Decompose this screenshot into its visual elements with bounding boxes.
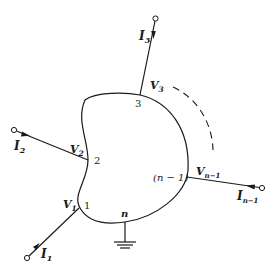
continuation-dashed-arc [173,87,213,150]
current-arrow-icon [21,132,30,137]
node-label-n: n [121,208,128,219]
node-n-ground: n [114,208,136,248]
node-label-n-minus-1: (n − 1) [153,172,188,183]
terminal-n-minus-1: In−1 Vn−1 (n − 1) [153,165,265,205]
voltage-label-1: V1 [63,198,77,213]
terminal-1-connector[interactable] [24,255,29,260]
current-label-1: I1 [40,247,52,263]
node-label-3: 3 [135,98,141,109]
current-label-2: I2 [13,139,26,155]
node-label-2: 2 [94,155,100,166]
node-label-1: 1 [84,200,90,211]
current-label-n-minus-1: In−1 [236,189,258,205]
terminal-n-minus-1-connector[interactable] [259,185,264,190]
voltage-label-3: V3 [150,79,164,94]
n-terminal-network-diagram: I3 V3 3 I2 V2 2 In−1 Vn−1 (n − 1) I1 V1 … [0,0,279,273]
terminal-2-connector[interactable] [11,127,16,132]
ground-icon [114,242,136,248]
voltage-label-2: V2 [70,143,84,158]
terminal-3-connector[interactable] [153,16,158,21]
voltage-label-n-minus-1: Vn−1 [196,165,220,180]
current-label-3: I3 [138,29,151,45]
